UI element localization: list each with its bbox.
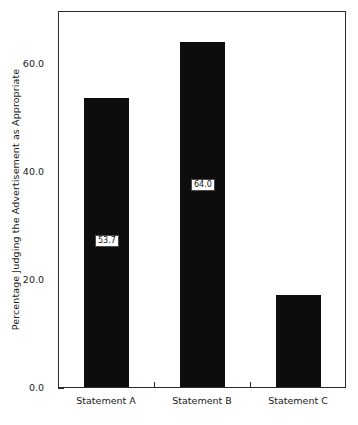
bar [276,295,321,387]
y-tick-label: 40.0 [4,166,44,178]
x-category-label: Statement A [58,394,154,408]
x-tick-mark [250,382,251,388]
y-tick-label: 60.0 [4,58,44,70]
x-tick-mark [154,382,155,388]
bar-chart: Percentage Judging the Advertisement as … [0,0,358,425]
x-category-label: Statement C [250,394,346,408]
bar [180,42,225,387]
y-tick-mark [58,388,64,389]
y-tick-label: 0.0 [4,382,44,394]
bar-value-label: 53.7 [95,235,119,247]
y-tick-label: 20.0 [4,274,44,286]
bar-value-label: 64.0 [191,179,215,191]
x-category-label: Statement B [154,394,250,408]
